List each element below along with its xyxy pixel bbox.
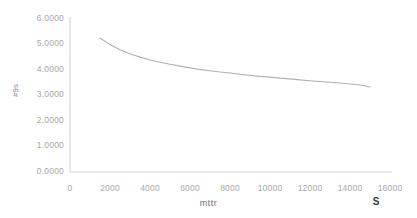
x-tick-label: 14000 — [330, 183, 370, 193]
y-tick-label: 5.0000 — [22, 38, 64, 48]
x-tick-label: 12000 — [290, 183, 330, 193]
x-tick-label: 8000 — [210, 183, 250, 193]
x-tick-label: 16000 — [370, 183, 410, 193]
series-line-s — [100, 38, 370, 87]
series-annotation-label: S — [364, 196, 388, 207]
y-tick-label: 2.0000 — [22, 115, 64, 125]
y-tick-label: 4.0000 — [22, 64, 64, 74]
x-tick-label: 2000 — [90, 183, 130, 193]
chart-container: 6.0000 5.0000 4.0000 3.0000 2.0000 1.000… — [0, 0, 417, 218]
x-tick-label: 10000 — [250, 183, 290, 193]
y-tick-label: 1.0000 — [22, 140, 64, 150]
y-axis-title: #9s — [11, 70, 20, 112]
y-tick-label: 6.0000 — [22, 13, 64, 23]
y-tick-label: 3.0000 — [22, 89, 64, 99]
x-axis-title: mttr — [0, 198, 417, 208]
y-tick-label: 0.0000 — [22, 166, 64, 176]
x-tick-label: 0 — [50, 183, 90, 193]
x-tick-label: 4000 — [130, 183, 170, 193]
x-tick-label: 6000 — [170, 183, 210, 193]
